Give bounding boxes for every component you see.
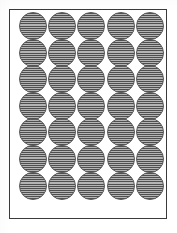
label-cell[interactable]	[107, 12, 135, 40]
round-label-icon	[77, 65, 105, 93]
round-label-icon	[107, 172, 135, 200]
label-cell[interactable]	[77, 118, 105, 146]
label-cell[interactable]	[77, 172, 105, 200]
round-label-icon	[107, 92, 135, 120]
label-cell[interactable]	[77, 12, 105, 40]
label-cell[interactable]	[77, 65, 105, 93]
round-label-icon	[19, 92, 47, 120]
round-label-icon	[136, 172, 164, 200]
label-cell[interactable]	[136, 118, 164, 146]
round-label-icon	[48, 145, 76, 173]
label-cell[interactable]	[77, 92, 105, 120]
label-grid	[10, 10, 168, 220]
label-cell[interactable]	[107, 65, 135, 93]
page-canvas	[0, 0, 177, 233]
round-label-icon	[48, 65, 76, 93]
round-label-icon	[19, 118, 47, 146]
round-label-icon	[107, 145, 135, 173]
label-cell[interactable]	[136, 145, 164, 173]
round-label-icon	[107, 39, 135, 67]
label-cell[interactable]	[136, 92, 164, 120]
round-label-icon	[19, 12, 47, 40]
label-cell[interactable]	[107, 39, 135, 67]
round-label-icon	[48, 92, 76, 120]
label-cell[interactable]	[19, 92, 47, 120]
label-cell[interactable]	[48, 92, 76, 120]
label-cell[interactable]	[19, 145, 47, 173]
round-label-icon	[48, 12, 76, 40]
label-cell[interactable]	[48, 172, 76, 200]
round-label-icon	[136, 65, 164, 93]
round-label-icon	[48, 172, 76, 200]
label-cell[interactable]	[107, 172, 135, 200]
round-label-icon	[136, 39, 164, 67]
round-label-icon	[19, 172, 47, 200]
label-sheet-border	[9, 9, 167, 219]
round-label-icon	[107, 118, 135, 146]
round-label-icon	[136, 118, 164, 146]
label-cell[interactable]	[48, 65, 76, 93]
label-cell[interactable]	[19, 12, 47, 40]
label-cell[interactable]	[136, 39, 164, 67]
round-label-icon	[77, 39, 105, 67]
label-cell[interactable]	[107, 145, 135, 173]
label-cell[interactable]	[48, 39, 76, 67]
round-label-icon	[136, 145, 164, 173]
label-cell[interactable]	[19, 65, 47, 93]
label-cell[interactable]	[77, 145, 105, 173]
label-cell[interactable]	[136, 172, 164, 200]
round-label-icon	[77, 172, 105, 200]
label-cell[interactable]	[107, 118, 135, 146]
round-label-icon	[77, 145, 105, 173]
round-label-icon	[77, 12, 105, 40]
round-label-icon	[77, 92, 105, 120]
round-label-icon	[19, 145, 47, 173]
round-label-icon	[19, 39, 47, 67]
label-cell[interactable]	[19, 172, 47, 200]
label-cell[interactable]	[48, 145, 76, 173]
label-cell[interactable]	[136, 65, 164, 93]
round-label-icon	[107, 65, 135, 93]
label-cell[interactable]	[136, 12, 164, 40]
round-label-icon	[136, 12, 164, 40]
label-cell[interactable]	[48, 12, 76, 40]
label-cell[interactable]	[19, 39, 47, 67]
label-cell[interactable]	[107, 92, 135, 120]
round-label-icon	[77, 118, 105, 146]
round-label-icon	[19, 65, 47, 93]
label-cell[interactable]	[77, 39, 105, 67]
round-label-icon	[48, 118, 76, 146]
round-label-icon	[107, 12, 135, 40]
round-label-icon	[48, 39, 76, 67]
round-label-icon	[136, 92, 164, 120]
label-cell[interactable]	[48, 118, 76, 146]
label-cell[interactable]	[19, 118, 47, 146]
